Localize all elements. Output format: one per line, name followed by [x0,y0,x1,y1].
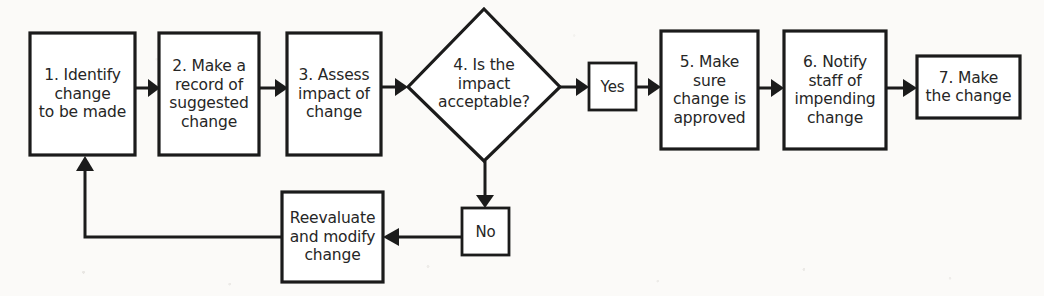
node-step2-shape[interactable] [159,33,259,155]
edge-step6-to-step7 [887,79,917,97]
edge-step3-to-step4 [382,78,408,96]
edge-reevaluate-to-step1 [76,156,282,237]
edge-step1-to-step2 [136,79,160,97]
node-yes-shape[interactable] [589,63,636,110]
node-step6-shape[interactable] [784,31,886,149]
edge-step2-to-step3 [260,79,288,97]
edge-step5-to-step6 [759,79,784,97]
edge-yes-to-step5 [637,78,661,96]
node-step3-shape[interactable] [287,33,381,155]
node-step1-shape[interactable] [30,33,135,155]
edge-step4-to-no [476,161,494,208]
edge-no-to-reevaluate [383,228,461,246]
node-reevaluate-shape[interactable] [282,192,383,282]
flowchart-canvas: 1. Identify change to be made 2. Make a … [0,0,1044,296]
node-no-shape[interactable] [462,208,509,255]
flowchart-svg [0,0,1044,296]
node-step5-shape[interactable] [661,31,758,149]
edge-step4-to-yes [560,78,589,96]
node-step7-shape[interactable] [917,56,1020,118]
node-step4-diamond-shape[interactable] [408,9,560,161]
